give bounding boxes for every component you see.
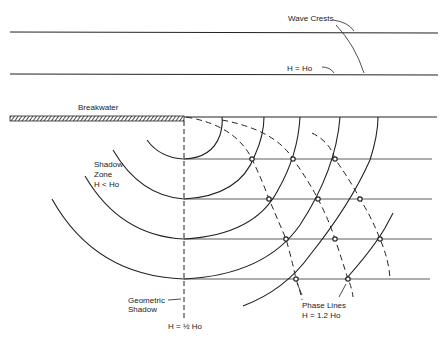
- phase-line-1: [186, 117, 302, 300]
- geometric-shadow-leader: [168, 299, 181, 300]
- phase-lines-label-2: H = 1.2 Ho: [302, 311, 340, 321]
- h-equals-ho-label: H = Ho: [287, 64, 312, 74]
- h-ho-leader: [322, 67, 334, 73]
- phase-line-2: [222, 120, 353, 297]
- phase-lines-leader-2: [339, 284, 346, 297]
- geometric-shadow-label-2: Shadow: [128, 305, 157, 315]
- phase-lines-leader-1: [297, 283, 302, 295]
- h-half-ho-label: H = ½ Ho: [168, 322, 202, 332]
- shadow-zone-label-2: Zone: [94, 170, 112, 180]
- diffraction-diagram: [0, 0, 445, 339]
- wave-crest-line-1: [10, 32, 438, 33]
- breakwater-label: Breakwater: [78, 103, 118, 113]
- wave-crests-label: Wave Crests: [288, 14, 334, 24]
- shadow-zone-label-1: Shadow: [94, 160, 123, 170]
- diffracted-arc-3: [85, 117, 300, 239]
- phase-lines-label-1: Phase Lines: [302, 301, 346, 311]
- shadow-zone-label-3: H < Ho: [94, 180, 119, 190]
- breakwater: [10, 116, 184, 121]
- diffracted-arc-6: [345, 213, 393, 280]
- phase-line-3: [312, 133, 390, 279]
- wave-crest-line-2: [10, 74, 438, 75]
- diffracted-arc-5: [243, 117, 378, 306]
- diffracted-arc-2: [113, 117, 264, 199]
- wave-crests-leader-2: [336, 25, 364, 73]
